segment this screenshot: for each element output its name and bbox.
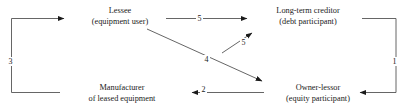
connector-edge-1	[360, 19, 396, 93]
edge-label-4: 4	[203, 55, 210, 64]
edge-label-3: 3	[7, 57, 14, 66]
node-ownerlessor-line2: (equity participant)	[268, 94, 368, 105]
node-manufacturer-line1: Manufacturer	[62, 83, 182, 94]
leveraged-lease-diagram: Lessee (equipment user) Long-term credit…	[0, 0, 409, 108]
node-ownerlessor-line1: Owner-lessor	[268, 83, 368, 94]
node-long-term-creditor: Long-term creditor (debt participant)	[256, 6, 360, 27]
connector-edge-3	[12, 19, 65, 93]
node-owner-lessor: Owner-lessor (equity participant)	[268, 83, 368, 104]
node-creditor-line2: (debt participant)	[256, 17, 360, 28]
edge-label-2: 2	[200, 85, 207, 94]
node-lessee: Lessee (equipment user)	[78, 6, 162, 27]
edge-label-5-diagonal: 5	[240, 38, 247, 47]
connector-edge-5-diagonal	[222, 33, 252, 53]
node-lessee-line2: (equipment user)	[78, 17, 162, 28]
node-manufacturer: Manufacturer of leased equipment	[62, 83, 182, 104]
edge-label-1: 1	[391, 57, 398, 66]
node-manufacturer-line2: of leased equipment	[62, 94, 182, 105]
node-lessee-line1: Lessee	[78, 6, 162, 17]
edge-label-5-top: 5	[196, 14, 203, 23]
node-creditor-line1: Long-term creditor	[256, 6, 360, 17]
